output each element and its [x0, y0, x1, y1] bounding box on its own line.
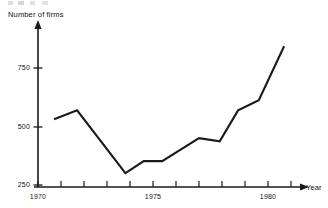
plot-area [0, 0, 328, 208]
data-series-line [54, 46, 284, 173]
x-axis-group [34, 181, 309, 191]
x-axis-arrowhead [300, 183, 309, 190]
x-axis-ticks [38, 181, 291, 187]
y-axis-group [34, 20, 43, 187]
chart-container: Number of firms Year 750 500 250 1970 19… [0, 0, 328, 208]
y-axis-arrowhead [34, 20, 41, 29]
